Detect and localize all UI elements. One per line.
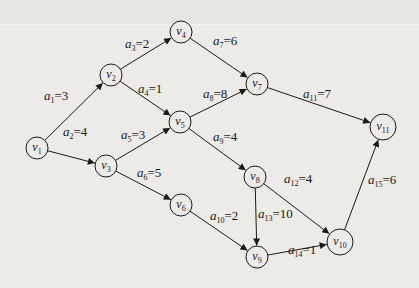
aoe-network-diagram: a1=3a2=4a3=2a4=1a5=3a6=5a7=6a8=8a9=4a10=…	[0, 0, 419, 288]
edge-label-a9: a9=4	[213, 129, 238, 146]
node-v10: v10	[327, 229, 353, 255]
edge-label-a15: a15=6	[368, 172, 397, 189]
edge-label-a7: a7=6	[213, 33, 238, 50]
node-v1: v1	[26, 137, 48, 159]
edges-layer: a1=3a2=4a3=2a4=1a5=3a6=5a7=6a8=8a9=4a10=…	[44, 33, 397, 259]
edge-label-a11: a11=7	[303, 86, 332, 103]
edge-a2	[48, 151, 95, 163]
node-v8: v8	[244, 166, 266, 188]
node-v3: v3	[95, 155, 117, 177]
node-v7: v7	[246, 73, 268, 95]
node-v6: v6	[170, 194, 192, 216]
node-v5: v5	[169, 111, 191, 133]
edge-label-a14: a14=1	[288, 242, 316, 259]
edge-label-a8: a8=8	[203, 86, 227, 103]
edge-label-a5: a5=3	[121, 127, 145, 144]
node-v11: v11	[370, 114, 396, 140]
edge-label-a12: a12=4	[284, 171, 313, 188]
node-v2: v2	[100, 64, 122, 86]
edge-label-a13: a13=10	[258, 206, 293, 223]
edge-label-a4: a4=1	[138, 81, 162, 98]
edge-label-a2: a2=4	[63, 124, 88, 141]
edge-a13	[255, 188, 256, 246]
edge-label-a6: a6=5	[137, 165, 161, 182]
edge-label-a10: a10=2	[210, 208, 238, 225]
edge-a4	[120, 81, 170, 115]
edge-label-a1: a1=3	[44, 88, 68, 105]
edge-label-a3: a3=2	[125, 36, 149, 53]
node-v4: v4	[170, 21, 192, 43]
node-v9: v9	[246, 246, 268, 268]
